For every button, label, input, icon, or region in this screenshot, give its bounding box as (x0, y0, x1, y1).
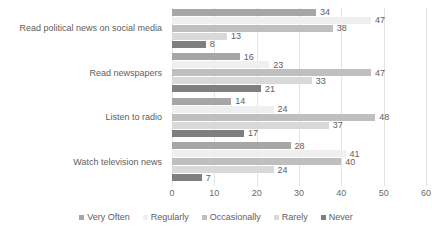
legend-swatch-icon (321, 215, 326, 220)
bar-group: 344738138 (172, 9, 426, 49)
bar-value-label: 37 (329, 120, 343, 130)
bar (172, 98, 231, 105)
bar-value-label: 34 (316, 7, 330, 17)
bar-group: 1424483717 (172, 98, 426, 138)
bar-value-label: 28 (291, 141, 305, 151)
bar-value-label: 23 (269, 60, 283, 70)
bar-value-label: 16 (240, 52, 254, 62)
category-axis: Read political news on social mediaRead … (0, 8, 168, 186)
bar (172, 53, 240, 60)
legend-item[interactable]: Very Often (79, 212, 130, 222)
bar (172, 25, 333, 32)
bar-row: 37 (172, 122, 426, 129)
category-label: Listen to radio (105, 112, 162, 122)
bar-value-label: 17 (244, 128, 258, 138)
legend-label: Rarely (282, 212, 308, 222)
bar-row: 16 (172, 53, 426, 60)
bar-value-label: 21 (261, 84, 275, 94)
legend-swatch-icon (274, 215, 279, 220)
legend-swatch-icon (143, 215, 148, 220)
bar (172, 41, 206, 48)
bar (172, 130, 244, 137)
bar-row: 7 (172, 174, 426, 181)
bar-row: 47 (172, 17, 426, 24)
bar-value-label: 13 (227, 31, 241, 41)
bar-row: 33 (172, 77, 426, 84)
bar-value-label: 47 (371, 15, 385, 25)
bar-value-label: 14 (231, 96, 245, 106)
bar-row: 34 (172, 9, 426, 16)
bar (172, 114, 375, 121)
bar-group: 1623473321 (172, 53, 426, 93)
bar (172, 77, 312, 84)
axis-tick-label: 10 (209, 188, 219, 198)
bar-chart: Read political news on social mediaRead … (0, 0, 432, 235)
bar-row: 14 (172, 98, 426, 105)
legend-item[interactable]: Rarely (274, 212, 308, 222)
legend-swatch-icon (202, 215, 207, 220)
legend-label: Never (329, 212, 353, 222)
bar-row: 21 (172, 85, 426, 92)
legend-item[interactable]: Regularly (143, 212, 189, 222)
bar-row: 17 (172, 130, 426, 137)
gridline (426, 8, 427, 186)
bar-value-label: 48 (375, 112, 389, 122)
bar-value-label: 38 (333, 23, 347, 33)
bar-row: 38 (172, 25, 426, 32)
bar-row: 23 (172, 61, 426, 68)
bar (172, 33, 227, 40)
bar-value-label: 40 (341, 157, 355, 167)
bar (172, 9, 316, 16)
legend-swatch-icon (79, 215, 84, 220)
bar-row: 41 (172, 150, 426, 157)
axis-tick-label: 50 (379, 188, 389, 198)
plot-area: 34473813816234733211424483717284140247 (172, 8, 426, 186)
axis-tick-label: 0 (169, 188, 174, 198)
bar (172, 69, 371, 76)
bar (172, 174, 202, 181)
value-axis: 0102030405060 (172, 188, 426, 202)
category-label: Watch television news (73, 157, 162, 167)
bar (172, 106, 274, 113)
bar-value-label: 33 (312, 76, 326, 86)
axis-tick-label: 30 (294, 188, 304, 198)
bar-row: 28 (172, 142, 426, 149)
category-label: Read newspapers (89, 68, 162, 78)
bar-value-label: 24 (274, 104, 288, 114)
bar (172, 142, 291, 149)
bar (172, 158, 341, 165)
bar (172, 150, 346, 157)
bar (172, 61, 269, 68)
axis-tick-label: 20 (252, 188, 262, 198)
bar-value-label: 24 (274, 165, 288, 175)
bar-value-label: 8 (206, 39, 215, 49)
bar-row: 48 (172, 114, 426, 121)
legend-label: Regularly (151, 212, 189, 222)
chart-legend: Very OftenRegularlyOccasionallyRarelyNev… (0, 212, 432, 222)
bar-value-label: 47 (371, 68, 385, 78)
legend-item[interactable]: Never (321, 212, 353, 222)
chart-title (0, 0, 432, 1)
bar-value-label: 7 (202, 173, 211, 183)
bar (172, 85, 261, 92)
axis-tick-label: 40 (336, 188, 346, 198)
category-label: Read political news on social media (19, 23, 162, 33)
bar-row: 47 (172, 69, 426, 76)
axis-tick-label: 60 (421, 188, 431, 198)
legend-label: Very Often (87, 212, 130, 222)
legend-label: Occasionally (210, 212, 261, 222)
bar (172, 166, 274, 173)
bar-group: 284140247 (172, 142, 426, 182)
bar-row: 8 (172, 41, 426, 48)
bar-row: 40 (172, 158, 426, 165)
legend-item[interactable]: Occasionally (202, 212, 261, 222)
